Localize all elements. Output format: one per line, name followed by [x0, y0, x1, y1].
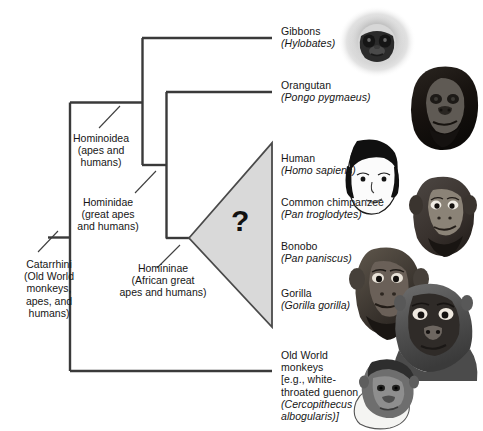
taxon-common-name-chimpanzee: Common chimpanzee	[281, 196, 384, 208]
phylogenetic-tree-figure: ? Gibbons (Hylobates) Orangutan (Pongo p…	[0, 0, 483, 431]
taxon-label-chimpanzee: Common chimpanzee (Pan troglodytes)	[281, 196, 384, 220]
taxon-label-human: Human (Homo sapiens)	[281, 152, 356, 176]
taxon-common-name-owm-line3: [e.g., white-	[281, 373, 358, 385]
taxon-scientific-name-chimpanzee: (Pan troglodytes)	[281, 208, 384, 220]
taxon-common-name-owm-line2: monkeys	[281, 361, 358, 373]
taxon-label-orangutan: Orangutan (Pongo pygmaeus)	[281, 79, 371, 103]
clade-leader-lines	[38, 106, 180, 268]
taxon-scientific-name-human: (Homo sapiens)	[281, 164, 356, 176]
clade-label-catarrhini: Catarrhini (Old World monkeys, apes, and…	[0, 258, 98, 319]
clade-desc-catarrhini-line1: (Old World	[0, 270, 98, 282]
clade-desc-catarrhini-line3: apes, and	[0, 295, 98, 307]
taxon-scientific-name-owm-line2: albogularis)]	[281, 410, 358, 422]
clade-name-hominidae: Hominidae	[62, 196, 154, 208]
clade-label-hominidae: Hominidae (great apes and humans)	[62, 196, 154, 233]
clade-desc-hominidae-line1: (great apes	[62, 208, 154, 220]
clade-label-homininae: Homininae (African great apes and humans…	[106, 262, 220, 299]
taxon-scientific-name-owm-line1: (Cercopithecus	[281, 398, 358, 410]
clade-desc-hominidae-line2: and humans)	[62, 220, 154, 232]
orangutan-face-icon	[411, 67, 478, 151]
taxon-common-name-orangutan: Orangutan	[281, 79, 371, 91]
taxon-scientific-name-gibbons: (Hylobates)	[281, 37, 335, 49]
gibbon-face-icon	[338, 6, 416, 78]
taxon-label-old-world-monkeys: Old World monkeys [e.g., white- throated…	[281, 349, 358, 422]
clade-desc-homininae-line1: (African great	[106, 274, 220, 286]
clade-desc-hominoidea-line2: humans)	[58, 156, 144, 168]
clade-desc-homininae-line2: apes and humans)	[106, 286, 220, 298]
clade-desc-catarrhini-line4: humans)	[0, 307, 98, 319]
taxon-common-name-human: Human	[281, 152, 356, 164]
taxon-common-name-gorilla: Gorilla	[281, 287, 350, 299]
taxon-scientific-name-gorilla: (Gorilla gorilla)	[281, 299, 350, 311]
clade-name-catarrhini: Catarrhini	[0, 258, 98, 270]
clade-name-homininae: Homininae	[106, 262, 220, 274]
clade-desc-catarrhini-line2: monkeys,	[0, 282, 98, 294]
taxon-common-name-owm-line1: Old World	[281, 349, 358, 361]
chimpanzee-face-icon	[409, 177, 477, 257]
guenon-face-icon	[354, 359, 419, 429]
taxon-scientific-name-orangutan: (Pongo pygmaeus)	[281, 91, 371, 103]
taxon-label-gorilla: Gorilla (Gorilla gorilla)	[281, 287, 350, 311]
taxon-common-name-bonobo: Bonobo	[281, 240, 352, 252]
clade-label-hominoidea: Hominoidea (apes and humans)	[58, 132, 144, 169]
taxon-label-gibbons: Gibbons (Hylobates)	[281, 25, 335, 49]
taxon-common-name-owm-line4: throated guenon	[281, 386, 358, 398]
taxon-common-name-gibbons: Gibbons	[281, 25, 335, 37]
taxon-label-bonobo: Bonobo (Pan paniscus)	[281, 240, 352, 264]
clade-name-hominoidea: Hominoidea	[58, 132, 144, 144]
clade-desc-hominoidea-line1: (apes and	[58, 144, 144, 156]
taxon-scientific-name-bonobo: (Pan paniscus)	[281, 252, 352, 264]
unresolved-polytomy-question-mark: ?	[231, 206, 249, 236]
